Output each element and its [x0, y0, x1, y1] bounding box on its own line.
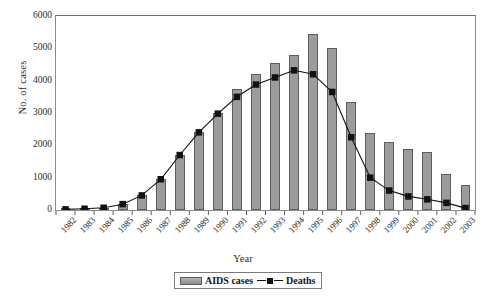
x-axis-tick-label-1999: 1999: [382, 215, 402, 235]
x-axis-tick-label-1984: 1984: [96, 215, 116, 235]
x-axis-tick-label-1991: 1991: [230, 215, 250, 235]
legend-dash-left: [257, 280, 266, 282]
x-axis-tick-label-1982: 1982: [58, 215, 78, 235]
line-series-deaths: [56, 16, 475, 210]
deaths-marker-1984: [100, 205, 107, 211]
deaths-marker-1994: [291, 67, 298, 74]
deaths-marker-1997: [348, 134, 355, 141]
y-axis-tick-label: 2000: [18, 140, 52, 150]
deaths-marker-2003: [462, 205, 469, 210]
x-axis-tick-label-1995: 1995: [306, 215, 326, 235]
x-axis-tick-label-2001: 2001: [420, 215, 440, 235]
x-axis-tick-label-1992: 1992: [249, 215, 269, 235]
y-axis-tick-label: 4000: [18, 76, 52, 86]
y-axis-tick-label: 5000: [18, 43, 52, 53]
x-axis-tick-label-1990: 1990: [211, 215, 231, 235]
plot-inner: [56, 16, 475, 210]
x-axis-tick-label-1983: 1983: [77, 215, 97, 235]
x-axis-tick-label-1989: 1989: [192, 215, 212, 235]
deaths-marker-1986: [139, 192, 146, 199]
x-axis-tick-label-1986: 1986: [134, 215, 154, 235]
deaths-polyline: [66, 70, 466, 209]
x-axis-tick-label-2002: 2002: [439, 215, 459, 235]
deaths-marker-1998: [367, 174, 374, 181]
legend-label-deaths: Deaths: [286, 275, 315, 286]
x-axis-tick-label-2003: 2003: [458, 215, 478, 235]
deaths-marker-1996: [329, 89, 336, 96]
deaths-marker-1995: [310, 71, 317, 78]
legend-swatch-aids-cases: [180, 277, 202, 285]
deaths-marker-2002: [443, 200, 450, 207]
x-axis-tick-label-1997: 1997: [344, 215, 364, 235]
x-axis-tick-label-1994: 1994: [287, 215, 307, 235]
legend-dash-right: [274, 280, 283, 282]
deaths-marker-1989: [196, 129, 203, 136]
deaths-marker-1982: [62, 206, 69, 210]
deaths-marker-1992: [253, 81, 260, 88]
deaths-markers: [62, 67, 468, 210]
x-axis-tick-label-1988: 1988: [173, 215, 193, 235]
deaths-marker-1999: [386, 187, 393, 194]
legend-square-marker: [267, 278, 273, 284]
deaths-marker-2000: [405, 193, 412, 200]
x-axis-tick-label-1985: 1985: [115, 215, 135, 235]
legend-marker-deaths: [257, 278, 283, 284]
plot-area: [55, 15, 476, 211]
chart-legend: AIDS cases Deaths: [174, 272, 322, 289]
deaths-marker-1988: [177, 152, 184, 159]
x-axis-tick-label-1987: 1987: [153, 215, 173, 235]
deaths-marker-1993: [272, 74, 279, 81]
y-axis-tick-label: 6000: [18, 11, 52, 21]
deaths-marker-1985: [119, 201, 126, 208]
deaths-marker-1990: [215, 110, 222, 117]
x-axis-title: Year: [0, 253, 486, 264]
chart-figure: No. of cases 0100020003000400050006000 1…: [0, 0, 486, 301]
x-axis-tick-label-1993: 1993: [268, 215, 288, 235]
x-axis-tick-label-2000: 2000: [401, 215, 421, 235]
y-axis-tick-label: 0: [18, 205, 52, 215]
y-axis-tick-label: 1000: [18, 173, 52, 183]
deaths-marker-1987: [158, 176, 165, 183]
legend-label-aids-cases: AIDS cases: [205, 275, 253, 286]
x-axis-tick-label-1996: 1996: [325, 215, 345, 235]
deaths-marker-2001: [424, 196, 431, 203]
x-axis-tick-labels: 1982198319841985198619871988198919901991…: [55, 211, 476, 257]
x-axis-tick-label-1998: 1998: [363, 215, 383, 235]
deaths-marker-1991: [234, 94, 241, 101]
deaths-marker-1983: [81, 206, 88, 211]
y-axis-tick-label: 3000: [18, 108, 52, 118]
